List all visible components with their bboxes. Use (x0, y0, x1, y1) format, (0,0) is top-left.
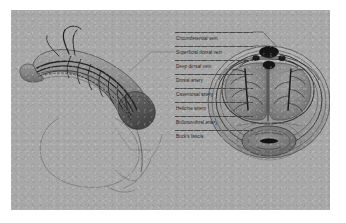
label-text-bulbourethral-artery: Bulbourethral artery (176, 119, 253, 126)
urethra (260, 139, 278, 144)
label-column: Circumferential vein Superficial dorsal … (175, 21, 253, 146)
label-rule (175, 74, 253, 75)
superficial-dorsal-vein (263, 61, 275, 69)
label-text-bucks-fascia: Buck's fascia (176, 133, 253, 140)
label-row-superficial-dorsal-vein: Superficial dorsal vein (175, 46, 253, 60)
label-text-circumflex-vein: Circumferential vein (176, 35, 253, 42)
label-text-helicine-artery: Helicine artery (176, 105, 253, 112)
label-row-circumflex-vein: Circumferential vein (175, 32, 253, 46)
label-row-cavernosal-artery: Cavernosal artery (175, 88, 253, 102)
label-row-dorsal-artery: Dorsal artery (175, 74, 253, 88)
label-rule (175, 130, 253, 131)
anatomy-figure-plate: Circumferential vein Superficial dorsal … (11, 10, 330, 210)
label-row-bulbourethral-artery: Bulbourethral artery (175, 116, 253, 130)
label-rule (175, 32, 253, 33)
label-rule (175, 102, 253, 103)
label-rule (175, 46, 253, 47)
label-rule (175, 60, 253, 61)
label-text-deep-dorsal-vein: Deep dorsal vein (176, 63, 253, 70)
penile-cross-section-illustration (11, 10, 330, 210)
label-rule (175, 88, 253, 89)
label-row-deep-dorsal-vein: Deep dorsal vein (175, 60, 253, 74)
label-row-bucks-fascia: Buck's fascia (175, 130, 253, 144)
dorsal-artery-left (253, 55, 260, 60)
label-row-helicine-artery: Helicine artery (175, 102, 253, 116)
label-rule (175, 116, 253, 117)
label-text-cavernosal-artery: Cavernosal artery (176, 91, 253, 98)
label-text-superficial-dorsal-vein: Superficial dorsal vein (176, 49, 253, 56)
dorsal-artery-right (279, 55, 286, 60)
label-text-dorsal-artery: Dorsal artery (176, 77, 253, 84)
